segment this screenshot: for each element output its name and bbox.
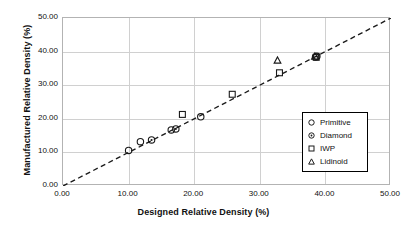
triangle-marker-icon <box>307 157 316 166</box>
x-tick-label: 20.00 <box>173 189 213 198</box>
legend-item-lidinoid[interactable]: Lidinoid <box>307 155 363 168</box>
data-point-triangle <box>274 57 281 63</box>
circle-marker-icon <box>307 118 316 127</box>
y-tick-label: 30.00 <box>24 79 58 88</box>
legend-item-label: Lidinoid <box>320 157 348 166</box>
data-point-circle-dot <box>309 133 314 138</box>
data-point-triangle <box>309 159 315 164</box>
x-tick-label: 50.00 <box>370 189 407 198</box>
y-tick-label: 40.00 <box>24 46 58 55</box>
y-tick-label: 0.00 <box>24 180 58 189</box>
square-marker-icon <box>307 144 316 153</box>
legend-item-label: Primitive <box>320 118 351 127</box>
data-point-square <box>229 91 235 97</box>
data-point-circle <box>309 120 314 125</box>
legend-item-label: IWP <box>320 144 335 153</box>
circle-dot-marker-icon <box>307 131 316 140</box>
data-point-square <box>179 111 185 117</box>
x-tick-label: 30.00 <box>239 189 279 198</box>
data-point-square <box>277 70 283 76</box>
legend-item-primitive[interactable]: Primitive <box>307 116 363 129</box>
legend-item-iwp[interactable]: IWP <box>307 142 363 155</box>
y-tick-label: 20.00 <box>24 113 58 122</box>
x-tick-label: 0.00 <box>42 189 82 198</box>
data-point-circle <box>198 114 204 120</box>
legend-item-label: Diamond <box>320 131 352 140</box>
x-tick-label: 10.00 <box>108 189 148 198</box>
data-point-circle <box>125 147 131 153</box>
y-tick-label: 10.00 <box>24 146 58 155</box>
y-axis-title: Manufactured Relative Density (%) <box>22 0 32 200</box>
data-point-circle-dot <box>173 126 179 132</box>
legend-item-diamond[interactable]: Diamond <box>307 129 363 142</box>
x-axis-title: Designed Relative Density (%) <box>0 207 407 217</box>
series-lidinoid <box>274 53 318 63</box>
series-iwp <box>179 54 319 117</box>
legend: PrimitiveDiamondIWPLidinoid <box>302 112 368 172</box>
x-tick-label: 40.00 <box>304 189 344 198</box>
scatter-chart: Manufactured Relative Density (%) Design… <box>0 0 407 227</box>
data-point-square <box>309 146 314 151</box>
y-tick-label: 50.00 <box>24 12 58 21</box>
data-point-circle <box>137 138 143 144</box>
data-point-circle-dot <box>148 137 154 143</box>
